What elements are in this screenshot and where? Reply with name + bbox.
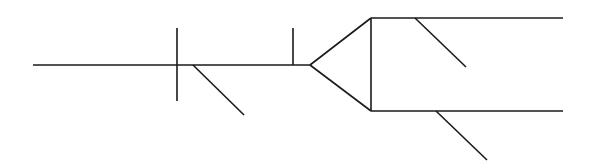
subject-modifier-diagonal bbox=[193, 65, 244, 115]
fork-upper-arm bbox=[310, 18, 371, 65]
upper-branch-modifier-diagonal bbox=[415, 18, 466, 67]
diagram-lines bbox=[0, 0, 590, 168]
lower-branch-modifier-diagonal bbox=[436, 111, 487, 160]
sentence-diagram bbox=[0, 0, 590, 168]
fork-lower-arm bbox=[310, 65, 371, 111]
